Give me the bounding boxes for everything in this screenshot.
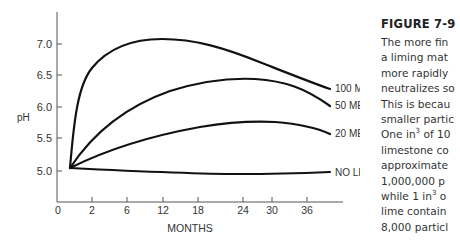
series-label-20-mesh: 20 MESH bbox=[335, 128, 360, 139]
caption-line: while 1 in3 o bbox=[381, 189, 460, 204]
x-tick-label: 36 bbox=[301, 204, 313, 216]
series-20-mesh bbox=[70, 122, 330, 168]
caption-line: neutralizes so bbox=[381, 81, 460, 96]
y-tick-label: 7.0 bbox=[37, 38, 52, 50]
series-100-mesh bbox=[70, 39, 330, 168]
x-tick-label: 6 bbox=[124, 204, 130, 216]
caption-line: smaller partic bbox=[381, 112, 460, 127]
caption-line: The more fin bbox=[381, 35, 460, 50]
y-tick-label: 6.5 bbox=[37, 69, 52, 81]
x-tick-label: 30 bbox=[266, 204, 278, 216]
y-axis-label: pH bbox=[17, 112, 30, 123]
x-tick-label: 24 bbox=[237, 204, 249, 216]
x-axis-label: MONTHS bbox=[167, 222, 213, 234]
y-ticks: 7.0 6.5 6.0 5.5 5.0 bbox=[37, 38, 62, 177]
series-label-100-mesh: 100 MESH bbox=[335, 83, 360, 94]
series-label-no-lime: NO LIME bbox=[335, 167, 360, 178]
x-tick-label: 12 bbox=[157, 204, 169, 216]
figure-caption: FIGURE 7-9 The more fina liming matmore … bbox=[381, 17, 460, 235]
caption-line: lime contain bbox=[381, 204, 460, 219]
ph-line-chart: 7.0 6.5 6.0 5.5 5.0 pH 0 2 6 12 18 24 30… bbox=[0, 0, 360, 245]
caption-line: more rapidly bbox=[381, 66, 460, 81]
caption-line: limestone co bbox=[381, 143, 460, 158]
caption-body: The more fina liming matmore rapidlyneut… bbox=[381, 35, 460, 235]
caption-line: This is becau bbox=[381, 97, 460, 112]
series-no-lime bbox=[70, 168, 330, 174]
y-tick-label: 5.0 bbox=[37, 165, 52, 177]
caption-line: a liming mat bbox=[381, 50, 460, 65]
y-tick-label: 5.5 bbox=[37, 132, 52, 144]
x-tick-label: 2 bbox=[89, 204, 95, 216]
caption-line: One in3 of 10 bbox=[381, 127, 460, 142]
y-tick-label: 6.0 bbox=[37, 101, 52, 113]
x-ticks: 0 2 6 12 18 24 30 36 bbox=[55, 197, 313, 216]
series-label-50-mesh: 50 MESH bbox=[335, 100, 360, 111]
figure-title: FIGURE 7-9 bbox=[381, 17, 460, 31]
x-tick-label: 18 bbox=[192, 204, 204, 216]
caption-line: 1,000,000 p bbox=[381, 174, 460, 189]
caption-line: approximate bbox=[381, 158, 460, 173]
x-tick-label: 0 bbox=[55, 204, 61, 216]
caption-line: 8,000 particl bbox=[381, 220, 460, 235]
